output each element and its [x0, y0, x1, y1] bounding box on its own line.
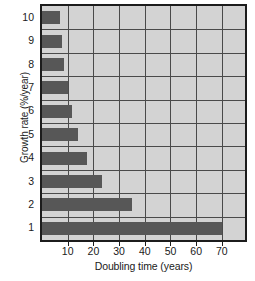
horizontal-gridline [42, 76, 245, 77]
vertical-gridline [145, 6, 146, 240]
x-axis-tick-label-60: 60 [184, 246, 208, 257]
y-axis-tick-label-7: 7 [8, 82, 34, 93]
horizontal-gridline [42, 100, 245, 101]
x-axis-tick-label-40: 40 [133, 246, 157, 257]
horizontal-gridline [42, 170, 245, 171]
x-axis-tick-label-70: 70 [210, 246, 234, 257]
horizontal-gridline [42, 123, 245, 124]
x-axis-tick-label-50: 50 [158, 246, 182, 257]
bar [42, 11, 60, 24]
plot-inner [42, 6, 245, 240]
x-axis-tick-label-10: 10 [56, 246, 80, 257]
bar [42, 58, 64, 71]
y-axis-tick-label-8: 8 [8, 59, 34, 70]
horizontal-gridline [42, 146, 245, 147]
bar [42, 128, 78, 141]
x-axis-title: Doubling time (years) [40, 260, 247, 272]
y-axis-tick-label-3: 3 [8, 176, 34, 187]
horizontal-gridline [42, 29, 245, 30]
doubling-time-bar-chart: Growth rate (%/year) 10987654321 1020304… [0, 0, 255, 281]
vertical-gridline [196, 6, 197, 240]
horizontal-gridline [42, 217, 245, 218]
y-axis-tick-label-6: 6 [8, 105, 34, 116]
bar [42, 105, 72, 118]
bar [42, 198, 132, 211]
horizontal-gridline [42, 53, 245, 54]
y-axis-tick-label-1: 1 [8, 222, 34, 233]
y-axis-tick-label-4: 4 [8, 152, 34, 163]
bar [42, 81, 68, 94]
bar [42, 35, 62, 48]
y-axis-tick-label-9: 9 [8, 35, 34, 46]
y-axis-tick-label-10: 10 [8, 12, 34, 23]
vertical-gridline [222, 6, 223, 240]
x-axis-tick-label-20: 20 [81, 246, 105, 257]
bar [42, 222, 222, 235]
horizontal-gridline [42, 193, 245, 194]
x-axis-tick-label-30: 30 [107, 246, 131, 257]
y-axis-tick-label-2: 2 [8, 199, 34, 210]
vertical-gridline [170, 6, 171, 240]
plot-area [40, 4, 247, 242]
bar [42, 175, 102, 188]
bar [42, 152, 87, 165]
y-axis-tick-label-5: 5 [8, 129, 34, 140]
